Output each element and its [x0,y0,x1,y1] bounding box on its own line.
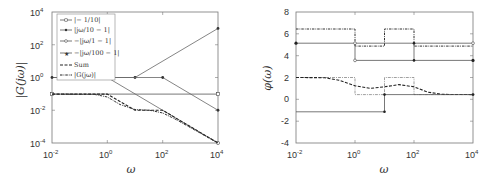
left-ytick-5: 10-4 [30,138,46,149]
left-ytick-3: 100 [30,72,44,83]
svg-text:Sum: Sum [74,61,89,69]
svg-text:|− 1/10|: |− 1/10| [74,16,101,24]
svg-text:−|jω/1 − 1|: −|jω/1 − 1| [74,37,111,45]
left-xtick-1: 10-2 [43,149,59,160]
left-x-axis-label: ω [127,163,136,176]
series-sum [52,94,218,143]
legend-entry-4: ★ −|jω/100 − 1| [60,49,119,57]
right-xtick-4: 104 [465,149,479,160]
right-ytick-4: 4 [284,51,289,61]
right-x-axis-label: ω [380,163,389,176]
figure: 104 102 100 10-2 10-4 10-2 100 102 104 ω… [0,0,492,178]
svg-text:★: ★ [64,51,69,57]
svg-text:|G(jω)|: |G(jω)| [74,71,96,79]
left-ytick-1: 104 [30,7,44,18]
left-y-axis-label: |G(jω)| [14,61,28,98]
series-pole-1 [52,78,220,145]
left-y-tick-labels: 104 102 100 10-2 10-4 [30,7,46,149]
left-legend: |− 1/10| |jω/10 − 1| −|jω/1 − 1| ★ −|jω/… [57,14,119,80]
series-actual [52,94,218,143]
svg-text:|jω/10 − 1|: |jω/10 − 1| [74,26,110,34]
phase-asymptotic-sum [296,78,473,95]
magnitude-plot: 104 102 100 10-2 10-4 10-2 100 102 104 ω… [14,7,224,176]
left-xtick-2: 100 [99,149,113,160]
right-x-tick-labels: 10-2 100 102 104 [287,149,479,160]
right-xtick-1: 10-2 [287,149,303,160]
left-ytick-4: 10-2 [30,105,46,116]
right-xtick-2: 100 [347,149,361,160]
right-ytick-neg2: -2 [281,116,289,126]
right-ytick-8: 8 [284,7,289,17]
right-ytick-neg4: -4 [281,138,289,148]
left-xtick-3: 102 [155,149,169,160]
right-ytick-2: 2 [284,73,289,83]
left-x-tick-labels: 10-2 100 102 104 [43,149,224,160]
right-y-tick-labels: 8 6 4 2 0 -2 -4 [281,7,289,148]
right-y-axis-label: φ(ω) [261,65,274,90]
right-ytick-6: 6 [284,29,289,39]
svg-text:−|jω/100 − 1|: −|jω/100 − 1| [74,49,119,57]
right-xtick-3: 102 [406,149,420,160]
left-xtick-4: 104 [210,149,224,160]
phase-plot: 8 6 4 2 0 -2 -4 10-2 100 102 104 ω φ(ω) [261,7,479,176]
left-ytick-2: 102 [30,40,44,51]
right-ytick-0: 0 [284,94,289,104]
phase-neg-pi-step [296,93,474,113]
